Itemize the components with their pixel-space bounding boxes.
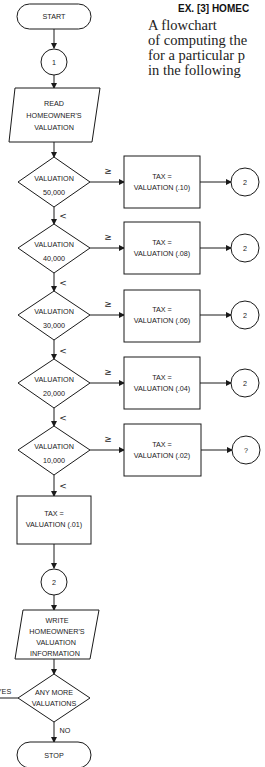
- svg-text:VALUATION (.10): VALUATION (.10): [134, 183, 190, 192]
- write-output-box: WRITE HOMEOWNER'S VALUATION INFORMATION: [15, 610, 99, 659]
- decision-20000: VALUATION 20,000: [18, 359, 90, 408]
- connector-1: 1: [41, 49, 67, 75]
- tax-box-08: TAX = VALUATION (.08): [124, 222, 200, 274]
- ge-label: ≥: [104, 367, 112, 377]
- svg-text:TAX =: TAX =: [152, 305, 172, 314]
- svg-text:ANY MORE: ANY MORE: [35, 688, 73, 697]
- tax-box-10: TAX = VALUATION (.10): [124, 156, 200, 208]
- connector-2-a: 2: [231, 168, 259, 196]
- svg-text:VALUATION: VALUATION: [34, 240, 74, 249]
- svg-text:30,000: 30,000: [43, 321, 65, 330]
- svg-text:READ: READ: [44, 99, 64, 108]
- lt-label: <: [59, 211, 67, 221]
- svg-text:START: START: [43, 12, 67, 21]
- stop-terminal: STOP: [17, 742, 91, 767]
- svg-text:TAX =: TAX =: [152, 172, 172, 181]
- start-terminal: START: [17, 4, 91, 29]
- svg-text:2: 2: [243, 379, 247, 388]
- svg-text:10,000: 10,000: [43, 456, 65, 465]
- decision-30000: VALUATION 30,000: [18, 291, 90, 340]
- ge-label: ≥: [104, 434, 112, 444]
- svg-text:VALUATION (.04): VALUATION (.04): [134, 384, 190, 393]
- svg-text:WRITE: WRITE: [45, 616, 68, 625]
- svg-text:40,000: 40,000: [43, 254, 65, 263]
- decision-any-more: ANY MORE VALUATIONS: [18, 674, 90, 722]
- svg-text:VALUATION: VALUATION: [34, 123, 74, 132]
- connector-2-b: 2: [231, 234, 259, 262]
- yes-label: YES: [0, 687, 11, 696]
- svg-text:VALUATIONS: VALUATIONS: [32, 699, 77, 708]
- decision-40000: VALUATION 40,000: [18, 224, 90, 273]
- tax-box-06: TAX = VALUATION (.06): [124, 290, 200, 342]
- svg-text:TAX =: TAX =: [152, 373, 172, 382]
- lt-label: <: [59, 481, 67, 491]
- ge-label: ≥: [104, 232, 112, 242]
- read-input-box: READ HOMEOWNER'S VALUATION: [9, 88, 100, 142]
- svg-text:2: 2: [243, 311, 247, 320]
- tax-box-04: TAX = VALUATION (.04): [124, 357, 200, 409]
- ge-label: ≥: [104, 166, 112, 176]
- tax-box-01: TAX = VALUATION (.01): [17, 496, 91, 544]
- svg-text:2: 2: [243, 178, 247, 187]
- svg-text:HOMEOWNER'S: HOMEOWNER'S: [29, 627, 84, 636]
- svg-text:1: 1: [52, 58, 56, 67]
- svg-text:VALUATION: VALUATION: [34, 307, 74, 316]
- svg-text:20,000: 20,000: [43, 389, 65, 398]
- svg-text:2: 2: [52, 578, 56, 587]
- svg-text:TAX =: TAX =: [44, 509, 64, 518]
- connector-2-c: 2: [231, 301, 259, 329]
- svg-text:TAX =: TAX =: [152, 440, 172, 449]
- tax-box-02: TAX = VALUATION (.02): [124, 424, 201, 476]
- svg-text:50,000: 50,000: [43, 188, 65, 197]
- svg-text:INFORMATION: INFORMATION: [30, 649, 80, 658]
- lt-label: <: [59, 278, 67, 288]
- decision-50000: VALUATION 50,000: [18, 157, 90, 207]
- no-label: NO: [60, 726, 71, 735]
- svg-text:?: ?: [244, 446, 248, 455]
- connector-2-main: 2: [41, 569, 67, 595]
- svg-text:VALUATION: VALUATION: [34, 174, 74, 183]
- ge-label: ≥: [104, 299, 112, 309]
- tax-flowchart: START 1 READ HOMEOWNER'S VALUATION VALUA…: [0, 0, 265, 767]
- svg-text:VALUATION: VALUATION: [34, 375, 74, 384]
- svg-text:VALUATION (.01): VALUATION (.01): [26, 520, 82, 529]
- connector-2-e: ?: [232, 436, 260, 464]
- svg-text:VALUATION (.08): VALUATION (.08): [134, 249, 190, 258]
- svg-text:TAX =: TAX =: [152, 238, 172, 247]
- lt-label: <: [59, 346, 67, 356]
- svg-text:VALUATION: VALUATION: [34, 442, 74, 451]
- svg-text:VALUATION (.06): VALUATION (.06): [134, 316, 190, 325]
- svg-text:VALUATION (.02): VALUATION (.02): [134, 451, 190, 460]
- connector-2-d: 2: [231, 369, 259, 397]
- decision-10000: VALUATION 10,000: [18, 426, 90, 475]
- svg-text:2: 2: [243, 244, 247, 253]
- svg-text:STOP: STOP: [44, 751, 64, 760]
- svg-text:HOMEOWNER'S: HOMEOWNER'S: [26, 111, 81, 120]
- svg-text:VALUATION: VALUATION: [36, 638, 76, 647]
- lt-label: <: [59, 413, 67, 423]
